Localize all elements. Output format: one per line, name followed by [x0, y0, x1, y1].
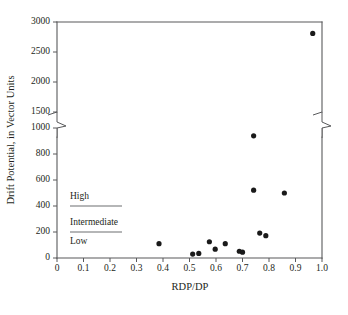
data-point: [196, 251, 201, 256]
y-tick-label: 800: [36, 148, 51, 158]
y-tick-label: 200: [36, 226, 51, 236]
x-tick-label: 0.2: [104, 263, 116, 273]
data-point: [213, 247, 218, 252]
x-tick-label: 0.6: [210, 263, 222, 273]
data-point: [240, 250, 245, 255]
data-point: [190, 252, 195, 257]
scatter-plot-figure: 020040060080010001500200025003000 00.10.…: [0, 0, 348, 315]
data-point: [263, 233, 268, 238]
y-tick-label: 2000: [31, 76, 50, 86]
data-point: [207, 239, 212, 244]
data-point: [257, 230, 262, 235]
x-tick-label: 0.9: [290, 263, 302, 273]
legend-bands: HighIntermediateLow: [70, 191, 122, 246]
y-tick-label: 400: [36, 200, 51, 210]
y-tick-label: 0: [45, 252, 50, 262]
y-tick-label: 1000: [31, 122, 50, 132]
x-tick-label: 0.1: [78, 263, 90, 273]
y-axis-title: Drift Potential, in Vector Units: [5, 76, 16, 205]
x-tick-label: 0.8: [263, 263, 275, 273]
y-axis-ticks: 020040060080010001500200025003000: [31, 16, 57, 262]
x-tick-label: 0.7: [237, 263, 249, 273]
x-axis-title: RDP/DP: [172, 281, 209, 292]
x-tick-label: 0.3: [131, 263, 143, 273]
axis-break-marks: [48, 112, 331, 138]
chart-canvas: 020040060080010001500200025003000 00.10.…: [0, 0, 348, 315]
data-point-series: [156, 31, 315, 257]
legend-label-high: High: [70, 191, 89, 201]
x-tick-label: 0.5: [184, 263, 196, 273]
y-tick-label: 600: [36, 174, 51, 184]
right-axis-break-zigzag: [313, 112, 331, 138]
data-point: [282, 190, 287, 195]
x-tick-label: 1.0: [316, 263, 328, 273]
y-axis-break-zigzag: [48, 112, 66, 138]
data-point: [251, 188, 256, 193]
y-tick-label: 3000: [31, 16, 50, 26]
data-point: [310, 31, 315, 36]
x-tick-label: 0.4: [157, 263, 169, 273]
legend-label-low: Low: [70, 236, 88, 246]
data-point: [223, 241, 228, 246]
y-tick-label: 2500: [31, 46, 50, 56]
x-tick-label: 0: [55, 263, 60, 273]
legend-label-intermediate: Intermediate: [70, 217, 118, 227]
y-tick-label: 1500: [31, 106, 50, 116]
data-point: [251, 133, 256, 138]
x-axis-ticks: 00.10.20.30.40.50.60.70.80.91.0: [55, 258, 329, 273]
data-point: [156, 241, 161, 246]
